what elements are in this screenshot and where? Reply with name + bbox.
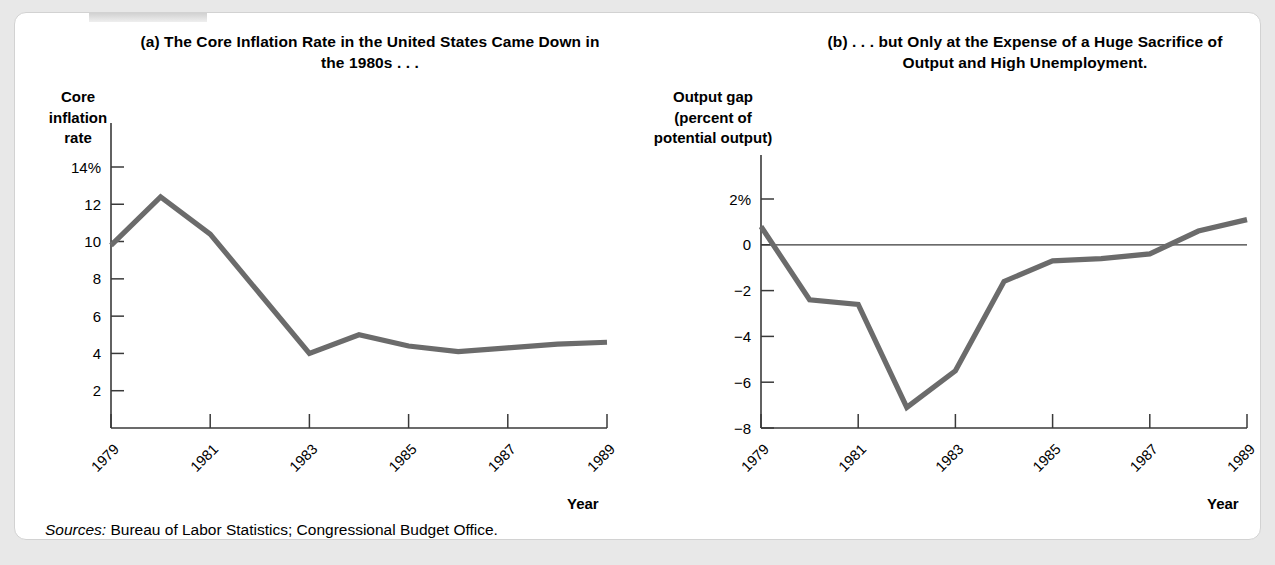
svg-text:−4: −4: [734, 328, 751, 345]
svg-text:−8: −8: [734, 420, 751, 437]
data-series-line: [761, 220, 1247, 408]
panel-a-x-axis-label: Year: [567, 495, 599, 512]
svg-text:1983: 1983: [932, 441, 966, 475]
panel-b-x-axis-label: Year: [1207, 495, 1239, 512]
svg-text:−2: −2: [734, 282, 751, 299]
sources-value: Bureau of Labor Statistics; Congressiona…: [106, 521, 498, 538]
figure-panel: (a) The Core Inflation Rate in the Unite…: [14, 12, 1261, 540]
sources-label: Sources:: [45, 521, 106, 538]
svg-text:1985: 1985: [1030, 441, 1064, 475]
svg-text:1979: 1979: [738, 441, 772, 475]
svg-text:1989: 1989: [1224, 441, 1258, 475]
svg-text:1981: 1981: [835, 441, 869, 475]
svg-text:0: 0: [743, 236, 751, 253]
chart-b-plot: 2%0−2−4−6−8197919811983198519871989: [15, 13, 1261, 540]
sources-note: Sources: Bureau of Labor Statistics; Con…: [45, 521, 498, 539]
svg-text:−6: −6: [734, 374, 751, 391]
svg-text:1987: 1987: [1127, 441, 1161, 475]
svg-text:2%: 2%: [729, 191, 751, 208]
